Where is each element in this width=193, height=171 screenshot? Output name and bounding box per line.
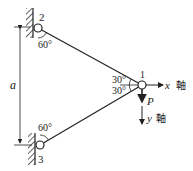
angle-arc-node2 (38, 33, 47, 39)
bar-1-2 (38, 28, 142, 85)
node-label-1: 1 (140, 69, 145, 80)
y-axis-label: y (146, 112, 152, 124)
wall-support-3 (28, 133, 35, 165)
angle-label-node2: 60° (38, 39, 52, 50)
node-label-3: 3 (38, 153, 44, 165)
load-label-p: P (146, 95, 154, 107)
bar-1-3 (40, 85, 142, 145)
pin-joint-1 (138, 81, 146, 89)
angle-label-node1-lower: 30° (112, 85, 126, 96)
angle-label-node1-upper: 30° (112, 74, 126, 85)
y-axis-suffix: 軸 (156, 112, 166, 124)
truss-diagram: 2 3 1 60° 60° 30° 30° a x 軸 P y 軸 (0, 0, 193, 171)
pin-joint-2 (34, 24, 42, 32)
x-axis-suffix: 軸 (176, 79, 186, 91)
x-axis-label: x (164, 79, 170, 91)
angle-label-node3: 60° (38, 122, 52, 133)
angle-arc-node3 (40, 135, 49, 140)
dimension-label-a: a (10, 78, 16, 92)
node-label-2: 2 (39, 11, 45, 23)
dimension-a (14, 27, 32, 145)
pin-joint-3 (36, 141, 44, 149)
wall-support-2 (26, 8, 33, 38)
